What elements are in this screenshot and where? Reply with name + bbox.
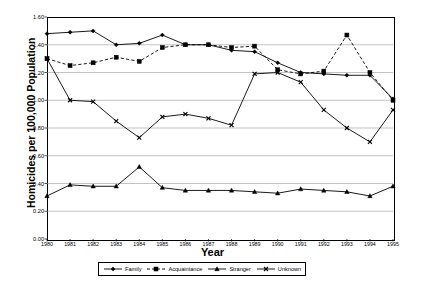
y-tick-label: 0.60	[33, 153, 44, 159]
legend-item-family[interactable]: Family	[103, 265, 141, 273]
x-axis-title: Year	[0, 246, 425, 258]
legend-label: Acquaintance	[168, 266, 202, 273]
triangle-marker-icon	[207, 265, 227, 273]
data-point-marker	[111, 267, 115, 271]
chart-container: Homicides per 100,000 Population 0.000.2…	[0, 0, 425, 284]
plot-area	[47, 17, 395, 241]
chart-legend: FamilyAcquaintanceStrangerUnknown	[98, 262, 306, 276]
diamond-marker-icon	[103, 265, 123, 273]
legend-label: Family	[125, 266, 141, 273]
y-tick-label: 0.20	[33, 208, 44, 214]
y-tick-label: 1.00	[33, 97, 44, 103]
legend-item-unknown[interactable]: Unknown	[256, 265, 301, 273]
legend-label: Stranger	[229, 266, 250, 273]
square-marker-icon	[146, 265, 166, 273]
y-tick-label: 0.80	[33, 125, 44, 131]
y-tick-label: 1.60	[33, 14, 44, 20]
legend-item-stranger[interactable]: Stranger	[207, 265, 250, 273]
data-point-marker	[154, 267, 158, 271]
x-marker-icon	[256, 265, 276, 273]
legend-item-acquaintance[interactable]: Acquaintance	[146, 265, 202, 273]
y-tick-label: 1.40	[33, 42, 44, 48]
legend-label: Unknown	[278, 266, 301, 273]
y-tick-label: 0.40	[33, 181, 44, 187]
y-tick-label: 1.20	[33, 70, 44, 76]
